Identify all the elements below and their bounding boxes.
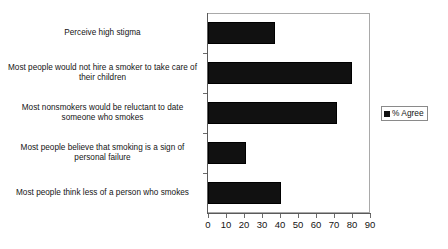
x-axis-tick (280, 214, 281, 218)
category-label: Most people believe that smoking is a si… (4, 143, 201, 164)
category-label: Most nonsmokers would be reluctant to da… (4, 103, 201, 124)
legend-label: % Agree (392, 109, 424, 118)
x-axis-tick (316, 214, 317, 218)
x-axis-tick (244, 214, 245, 218)
bar (208, 182, 281, 204)
x-axis-tick (334, 214, 335, 218)
x-axis-tick (370, 214, 371, 218)
x-axis-tick (298, 214, 299, 218)
category-label: Most people think less of a person who s… (4, 188, 201, 199)
category-label: Perceive high stigma (4, 28, 201, 39)
category-axis-labels: Perceive high stigmaMost people would no… (4, 13, 204, 213)
x-axis-tick (226, 214, 227, 218)
x-axis-tick (352, 214, 353, 218)
category-label: Most people would not hire a smoker to t… (4, 63, 201, 84)
x-axis-tick (208, 214, 209, 218)
bar (208, 142, 246, 164)
bar (208, 102, 337, 124)
bar (208, 62, 352, 84)
x-axis-tick (262, 214, 263, 218)
bars-layer (208, 13, 370, 213)
bar-chart: Perceive high stigmaMost people would no… (0, 0, 448, 249)
bar (208, 22, 275, 44)
chart-legend: % Agree (381, 106, 428, 121)
legend-square-marker (384, 111, 390, 117)
x-axis-tick-label: 90 (358, 219, 382, 230)
x-axis-line (207, 213, 371, 214)
